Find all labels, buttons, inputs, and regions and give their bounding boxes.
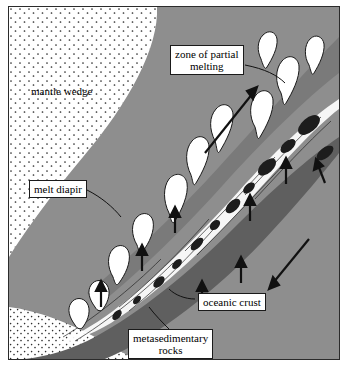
label-zone-of-partial-melting: zone of partial melting: [170, 45, 244, 75]
label-mantle-wedge: mantle wedge: [31, 85, 92, 97]
figure-canvas: mantle wedge zone of partial melting mel…: [0, 0, 347, 366]
label-melt-diapir: melt diapir: [29, 180, 87, 198]
subduction-zone-diagram: mantle wedge zone of partial melting mel…: [8, 6, 340, 360]
label-metasedimentary-rocks: metasedimentary rocks: [128, 329, 213, 359]
label-oceanic-crust: oceanic crust: [198, 293, 266, 311]
